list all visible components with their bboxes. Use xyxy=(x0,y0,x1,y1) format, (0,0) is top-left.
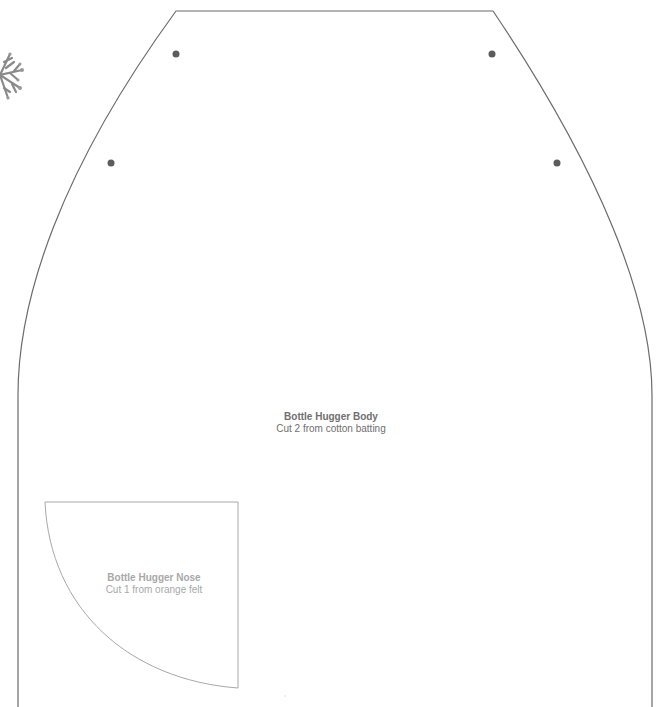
speck xyxy=(284,695,286,697)
nose-pattern-label: Bottle Hugger Nose Cut 1 from orange fel… xyxy=(54,572,254,596)
marker-dot-top-right xyxy=(489,51,496,58)
marker-dot-top-left xyxy=(173,51,180,58)
body-cut-instruction: Cut 2 from cotton batting xyxy=(231,423,431,435)
pattern-sheet xyxy=(0,0,662,707)
body-pattern-outline xyxy=(18,11,652,707)
snowflake-icon xyxy=(0,40,30,110)
marker-dot-mid-left xyxy=(108,160,115,167)
marker-dot-mid-right xyxy=(554,160,561,167)
nose-cut-instruction: Cut 1 from orange felt xyxy=(54,584,254,596)
nose-piece-name: Bottle Hugger Nose xyxy=(54,572,254,584)
body-pattern-label: Bottle Hugger Body Cut 2 from cotton bat… xyxy=(231,411,431,435)
body-piece-name: Bottle Hugger Body xyxy=(231,411,431,423)
